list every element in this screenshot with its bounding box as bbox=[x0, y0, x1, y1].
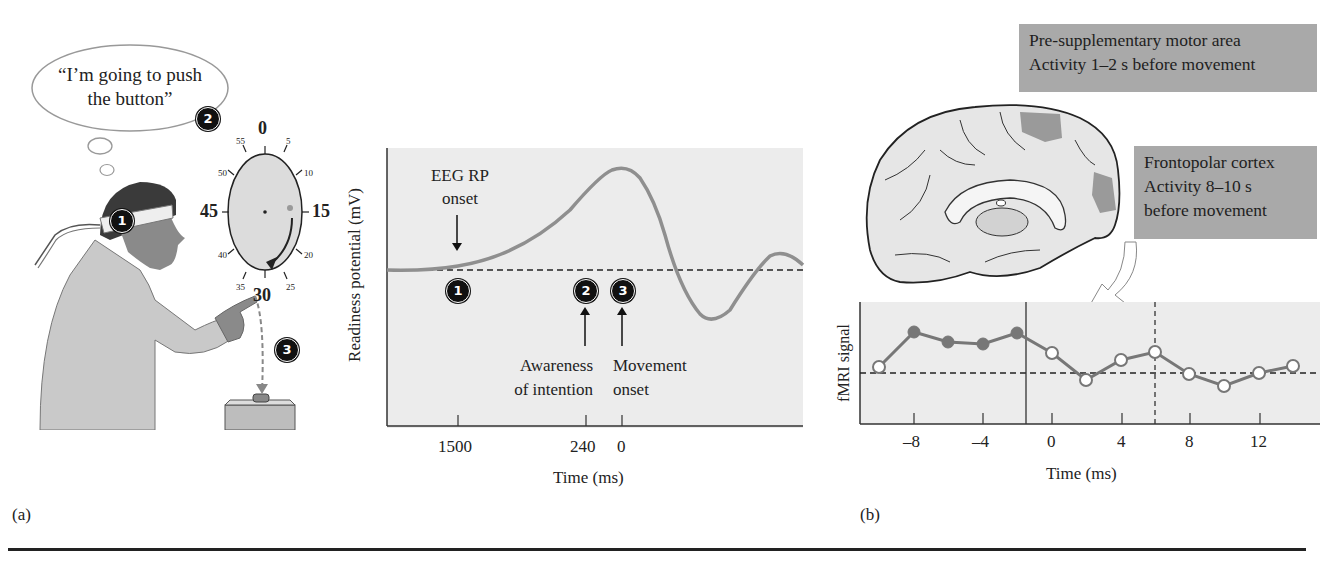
clock-label-50: 50 bbox=[218, 168, 227, 178]
marker-1-head: 1 bbox=[110, 209, 134, 233]
awareness-line-2: of intention bbox=[483, 378, 593, 402]
fmri-tick-0: 0 bbox=[1047, 432, 1056, 452]
callout-presma-line-2: Activity 1–2 s before movement bbox=[1029, 52, 1307, 76]
fmri-tick-8: 8 bbox=[1185, 432, 1194, 452]
panel-a-label: (a) bbox=[12, 505, 31, 525]
awareness-line-1: Awareness bbox=[483, 354, 593, 378]
bottom-divider bbox=[8, 548, 1306, 551]
callout-fpc-line-2: Activity 8–10 s bbox=[1144, 174, 1307, 198]
rp-ylabel: Readiness potential (mV) bbox=[345, 188, 365, 362]
rp-tick-1500: 1500 bbox=[438, 437, 472, 457]
clock-label-10: 10 bbox=[304, 168, 313, 178]
marker-2-bubble: 2 bbox=[196, 107, 220, 131]
clock-label-40: 40 bbox=[218, 250, 227, 260]
rp-marker-2: 2 bbox=[574, 279, 598, 303]
callout-fpc-line-1: Frontopolar cortex bbox=[1144, 150, 1307, 174]
rp-xlabel: Time (ms) bbox=[553, 468, 624, 488]
rp-onset-label: EEG RP onset bbox=[400, 164, 520, 210]
callout-frontopolar: Frontopolar cortex Activity 8–10 s befor… bbox=[1134, 146, 1317, 239]
fmri-tick-neg8: –8 bbox=[903, 432, 920, 452]
speech-line-2: the button” bbox=[50, 87, 210, 111]
callout-presma-line-1: Pre-supplementary motor area bbox=[1029, 28, 1307, 52]
movement-line-2: onset bbox=[613, 378, 723, 402]
fmri-tick-neg4: –4 bbox=[972, 432, 989, 452]
rp-onset-line-2: onset bbox=[400, 187, 520, 210]
marker-3-button: 3 bbox=[275, 338, 299, 362]
rp-marker-3: 3 bbox=[611, 279, 635, 303]
rp-onset-line-1: EEG RP bbox=[400, 164, 520, 187]
panel-b-label: (b) bbox=[860, 505, 880, 525]
clock-label-20: 20 bbox=[304, 250, 313, 260]
fmri-ylabel: fMRI signal bbox=[835, 324, 853, 402]
fmri-xlabel: Time (ms) bbox=[1046, 464, 1117, 484]
speech-line-1: “I’m going to push bbox=[50, 63, 210, 87]
clock-label-5: 5 bbox=[286, 136, 291, 146]
fmri-tick-4: 4 bbox=[1117, 432, 1126, 452]
clock-label-25: 25 bbox=[286, 282, 295, 292]
awareness-label: Awareness of intention bbox=[483, 354, 593, 402]
clock-label-45: 45 bbox=[200, 201, 218, 222]
movement-onset-label: Movement onset bbox=[613, 354, 723, 402]
clock-label-0: 0 bbox=[258, 118, 267, 139]
rp-tick-0: 0 bbox=[617, 437, 626, 457]
speech-bubble-text: “I’m going to push the button” bbox=[50, 63, 210, 111]
rp-marker-1: 1 bbox=[446, 279, 470, 303]
rp-tick-240: 240 bbox=[570, 437, 596, 457]
callout-presma: Pre-supplementary motor area Activity 1–… bbox=[1019, 24, 1317, 92]
clock-label-15: 15 bbox=[312, 201, 330, 222]
clock-label-30: 30 bbox=[253, 285, 271, 306]
callout-fpc-line-3: before movement bbox=[1144, 198, 1307, 222]
movement-line-1: Movement bbox=[613, 354, 723, 378]
fmri-tick-12: 12 bbox=[1250, 432, 1267, 452]
clock-label-55: 55 bbox=[236, 136, 245, 146]
clock-label-35: 35 bbox=[236, 282, 245, 292]
